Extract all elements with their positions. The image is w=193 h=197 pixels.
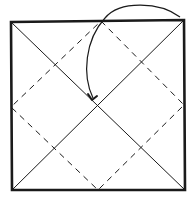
fold-diagram	[0, 0, 193, 197]
